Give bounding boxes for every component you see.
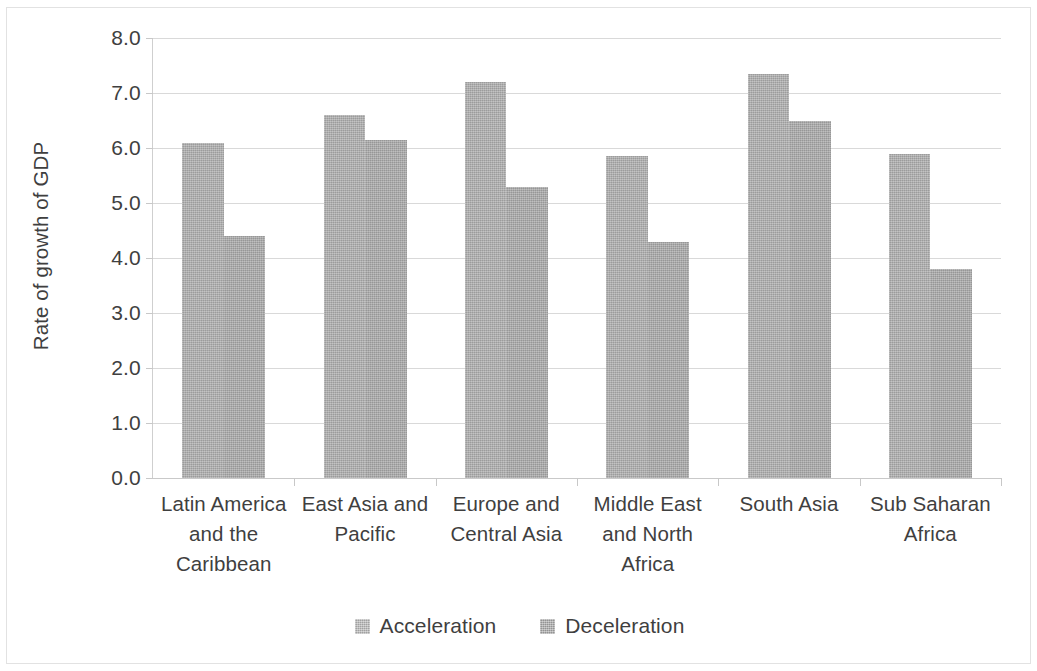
y-axis-tick-label: 0.0 [69,466,141,490]
y-axis-tick-label: 2.0 [69,356,141,380]
y-axis-tickmark [146,313,153,314]
x-axis-label-line: Middle East [573,489,722,519]
chart-frame: Rate of growth of GDP 8.07.06.05.04.03.0… [6,7,1031,664]
bar-deceleration-2 [506,187,548,479]
bar-acceleration-0 [182,143,224,479]
x-axis-label-line: Latin America [149,489,298,519]
x-axis-label-line: Africa [856,519,1005,549]
bar-deceleration-0 [224,236,266,478]
legend-entry-acceleration[interactable]: Acceleration [355,614,497,638]
x-axis-label-3: Middle Eastand NorthAfrica [573,489,722,579]
y-axis-tickmark [146,93,153,94]
x-axis-label-2: Europe andCentral Asia [432,489,581,549]
y-axis-tick-labels: 8.07.06.05.04.03.02.01.00.0 [69,8,141,665]
x-axis-tick-labels: Latin Americaand theCaribbeanEast Asia a… [153,489,1001,594]
bar-deceleration-4 [789,121,831,479]
x-axis-category-tick [436,478,437,486]
y-axis-tick-label: 6.0 [69,136,141,160]
x-axis-label-line: and North [573,519,722,549]
x-axis-label-5: Sub SaharanAfrica [856,489,1005,549]
x-axis-label-line: South Asia [714,489,863,519]
x-axis-label-line: Pacific [290,519,439,549]
x-axis-category-tick [718,478,719,486]
x-axis-label-line: Caribbean [149,549,298,579]
x-axis-category-tick [577,478,578,486]
y-axis-tickmark [146,423,153,424]
y-axis-tick-label: 4.0 [69,246,141,270]
gridline [153,148,1001,149]
bar-acceleration-4 [748,74,790,478]
x-axis-label-1: East Asia andPacific [290,489,439,549]
chart-legend: AccelerationDeceleration [7,614,1032,638]
legend-swatch-icon [355,619,370,634]
y-axis-tickmark [146,38,153,39]
x-axis-label-line: Africa [573,549,722,579]
x-axis-label-line: Central Asia [432,519,581,549]
legend-swatch-icon [540,619,555,634]
y-axis-tickmark [146,148,153,149]
gridline [153,38,1001,39]
y-axis-tick-label: 7.0 [69,81,141,105]
x-axis-label-line: and the [149,519,298,549]
gridline [153,258,1001,259]
y-axis-tickmark [146,478,153,479]
plot-area [153,38,1001,478]
y-axis-title: Rate of growth of GDP [29,46,53,446]
bar-deceleration-5 [930,269,972,478]
gridline [153,93,1001,94]
bar-acceleration-2 [465,82,507,478]
bar-acceleration-3 [606,156,648,478]
legend-entry-deceleration[interactable]: Deceleration [540,614,684,638]
x-axis-label-0: Latin Americaand theCaribbean [149,489,298,579]
x-axis-label-4: South Asia [714,489,863,519]
x-axis-label-line: East Asia and [290,489,439,519]
x-axis-category-tick [294,478,295,486]
y-axis-tick-label: 1.0 [69,411,141,435]
y-axis-tick-label: 5.0 [69,191,141,215]
y-axis-tick-label: 3.0 [69,301,141,325]
bar-deceleration-1 [365,140,407,478]
y-axis-tickmark [146,203,153,204]
y-axis-tick-label: 8.0 [69,26,141,50]
y-axis-tickmark [146,258,153,259]
chart-plot-wrapper: Rate of growth of GDP 8.07.06.05.04.03.0… [7,8,1032,665]
legend-label: Acceleration [380,614,497,638]
bar-deceleration-3 [648,242,690,479]
x-axis-label-line: Sub Saharan [856,489,1005,519]
bar-acceleration-1 [324,115,366,478]
y-axis-tickmark [146,368,153,369]
legend-label: Deceleration [565,614,684,638]
gridline [153,368,1001,369]
x-axis-category-tick [860,478,861,486]
gridline [153,313,1001,314]
x-axis-category-tick [1001,478,1002,486]
x-axis-label-line: Europe and [432,489,581,519]
gridline [153,423,1001,424]
gridline [153,203,1001,204]
bar-acceleration-5 [889,154,931,479]
